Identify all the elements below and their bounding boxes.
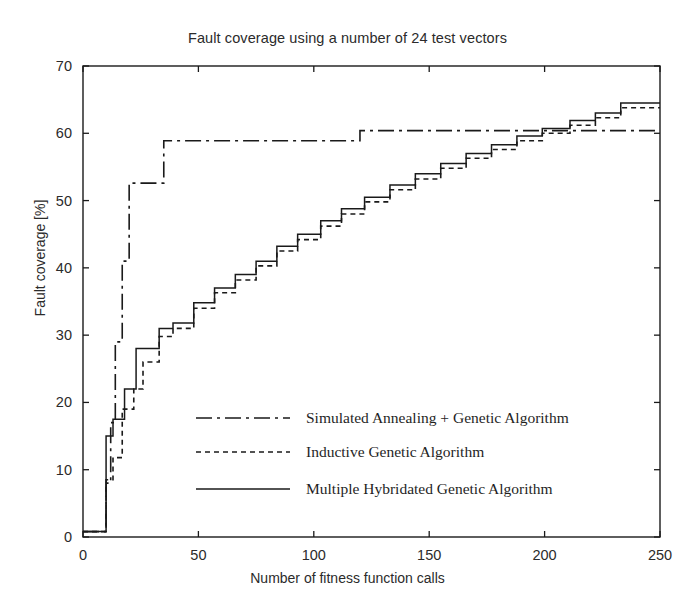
x-tick-label: 50 <box>190 547 206 563</box>
y-tick-label: 70 <box>27 58 72 74</box>
y-tick-label: 0 <box>27 529 72 545</box>
y-tick-label: 20 <box>27 394 72 410</box>
y-tick-label: 60 <box>27 125 72 141</box>
y-tick-label: 50 <box>27 193 72 209</box>
series-line-3 <box>83 103 660 532</box>
y-tick-label: 30 <box>27 327 72 343</box>
legend-label-3: Multiple Hybridated Genetic Algorithm <box>306 480 553 498</box>
plot-frame <box>83 66 660 537</box>
plot-canvas <box>0 0 695 604</box>
chart-figure: Fault coverage using a number of 24 test… <box>0 0 695 604</box>
series-line-1 <box>83 131 660 532</box>
x-tick-label: 0 <box>79 547 87 563</box>
legend-label-1: Simulated Annealing + Genetic Algorithm <box>306 409 569 427</box>
y-tick-label: 10 <box>27 462 72 478</box>
y-tick-label: 40 <box>27 260 72 276</box>
legend-label-2: Inductive Genetic Algorithm <box>306 443 484 461</box>
x-tick-label: 200 <box>532 547 556 563</box>
x-tick-label: 150 <box>417 547 441 563</box>
x-tick-label: 100 <box>302 547 326 563</box>
series-line-2 <box>83 108 660 532</box>
x-tick-label: 250 <box>648 547 672 563</box>
